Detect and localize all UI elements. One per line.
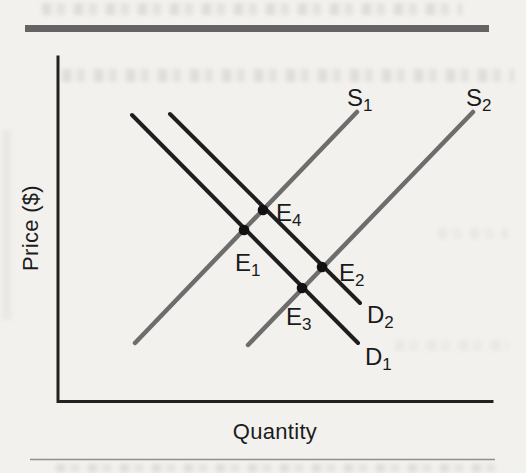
point-label-e4: E4 (276, 199, 301, 230)
point-label-e2: E2 (339, 259, 364, 290)
textbook-page: S1S2D1D2 E1E2E3E4 Price ($) Quantity (0, 0, 526, 473)
equilibrium-point-e2 (317, 262, 328, 273)
supply-demand-figure: S1S2D1D2 E1E2E3E4 Price ($) Quantity (0, 0, 526, 473)
x-axis-title: Quantity (233, 419, 317, 444)
curve-label-d1: D1 (365, 343, 392, 374)
y-axis-title: Price ($) (18, 185, 43, 271)
axes (58, 57, 492, 402)
equilibrium-point-e4 (258, 205, 269, 216)
supply-curve-s2 (248, 112, 473, 345)
curves-layer: S1S2D1D2 (132, 84, 491, 374)
point-label-e1: E1 (235, 249, 260, 280)
point-label-e3: E3 (286, 303, 311, 334)
equilibrium-point-e1 (239, 225, 250, 236)
equilibrium-point-e3 (297, 283, 308, 294)
curve-label-s1: S1 (347, 84, 372, 115)
curve-label-d2: D2 (367, 301, 394, 332)
curve-label-s2: S2 (466, 84, 491, 115)
top-rule (25, 25, 489, 32)
